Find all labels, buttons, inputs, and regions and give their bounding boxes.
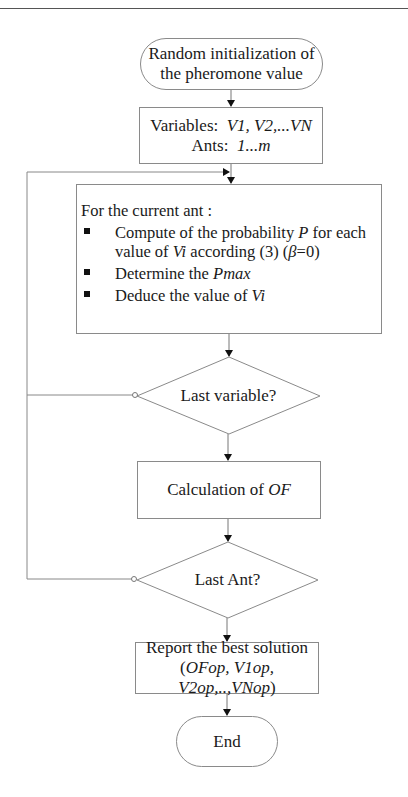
square-bullet-icon [84, 269, 90, 275]
step-compute-probability: Compute of the probability P for each va… [81, 223, 375, 261]
start-line-2: the pheromone value [160, 64, 303, 84]
report-best-solution-box: Report the best solution (OFop, V1op, V2… [135, 642, 319, 694]
step-determine-pmax: Determine the Pmax [81, 264, 375, 283]
decision-last-variable: Last variable? [137, 386, 320, 406]
init-variables-box: Variables: V1, V2,...VN Ants: 1...m [139, 107, 323, 164]
variables-line: Variables: V1, V2,...VN [150, 116, 311, 136]
per-ant-title: For the current ant : [81, 201, 375, 220]
step-deduce-vi: Deduce the value of Vi [81, 286, 375, 305]
ants-line: Ants: 1...m [192, 136, 271, 156]
square-bullet-icon [84, 291, 90, 297]
per-ant-process-box: For the current ant : Compute of the pro… [76, 184, 382, 334]
report-line-1: Report the best solution [146, 638, 308, 658]
end-terminator: End [176, 716, 278, 767]
start-terminator: Random initialization of the pheromone v… [140, 38, 323, 90]
decision-last-ant: Last Ant? [137, 570, 318, 590]
calculation-of-box: Calculation of OF [137, 461, 321, 519]
per-ant-steps: Compute of the probability P for each va… [81, 223, 375, 305]
square-bullet-icon [84, 228, 90, 234]
start-line-1: Random initialization of [148, 44, 314, 64]
calculation-of-label: Calculation of OF [167, 480, 291, 500]
report-line-2: (OFop, V1op, V2op,..,VNop) [136, 658, 318, 698]
